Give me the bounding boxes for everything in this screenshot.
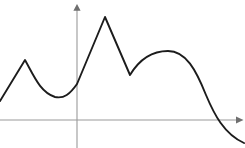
chart-canvas	[0, 0, 245, 148]
y-axis-arrow-icon	[73, 4, 80, 11]
axes-group	[0, 4, 244, 148]
chart-figure	[0, 0, 245, 148]
x-axis-arrow-icon	[236, 116, 244, 123]
curve-line	[0, 17, 244, 143]
series-group	[0, 17, 244, 143]
